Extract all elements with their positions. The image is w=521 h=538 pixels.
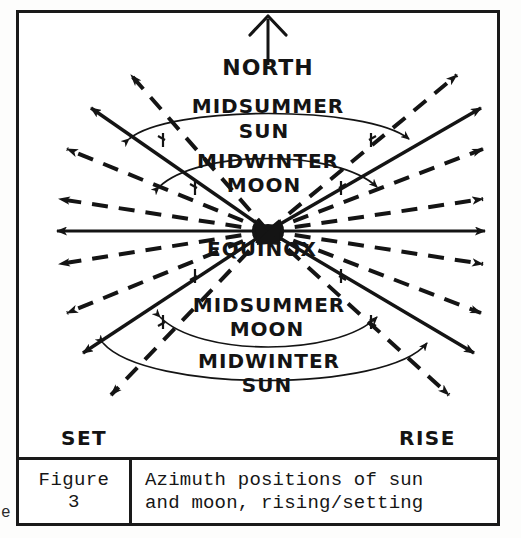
caption-line-2: and moon, rising/setting — [145, 492, 497, 514]
label-midwinter-sun-line1: MIDWINTER — [198, 349, 340, 373]
label-midwinter-moon-line2: MOON — [227, 173, 302, 197]
figure-caption-table: Figure 3 Azimuth positions of sun and mo… — [19, 457, 497, 523]
label-midsummer-sun-line1: MIDSUMMER — [192, 94, 344, 118]
label-midwinter-moon-line1: MIDWINTER — [197, 149, 339, 173]
rays-rise-group — [268, 75, 485, 395]
scan-edge-artifact: e — [1, 504, 11, 522]
label-midsummer-sun-line2: SUN — [239, 119, 289, 143]
label-midsummer-moon-line1: MIDSUMMER — [193, 293, 345, 317]
label-midwinter-sun-line2: SUN — [242, 373, 292, 397]
label-midsummer-moon-line2: MOON — [230, 317, 305, 341]
rays-set-group — [57, 75, 268, 395]
label-rise: RISE — [399, 426, 456, 450]
ray-set-intermediate-north — [59, 199, 268, 231]
azimuth-diagram: NORTH MIDSUMMER SUN MIDWINTER MOON EQUIN… — [19, 13, 497, 453]
label-north: NORTH — [222, 55, 314, 80]
figure-frame: NORTH MIDSUMMER SUN MIDWINTER MOON EQUIN… — [16, 10, 500, 526]
label-set: SET — [61, 426, 107, 450]
caption-line-1: Azimuth positions of sun — [145, 469, 497, 491]
caption-figure-number: 3 — [68, 492, 80, 513]
page-canvas: e — [0, 0, 521, 538]
caption-text-cell: Azimuth positions of sun and moon, risin… — [132, 460, 497, 523]
label-equinox: EQUINOX — [207, 237, 317, 261]
caption-figure-word: Figure — [39, 470, 110, 491]
caption-figure-number-cell: Figure 3 — [19, 460, 132, 523]
